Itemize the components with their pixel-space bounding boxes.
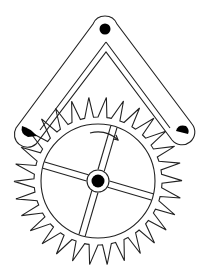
anchor-inner-edge: [40, 42, 170, 130]
pivot-icon: [100, 24, 111, 35]
wheel-spoke: [110, 181, 154, 194]
wheel-spoke: [43, 168, 87, 181]
wheel-spoke: [79, 191, 92, 235]
wheel-spoke: [108, 187, 152, 200]
diagram-canvas: [0, 0, 204, 278]
escapement-diagram: Anchor escapement mechanism: [0, 0, 204, 278]
anchor: [14, 16, 194, 147]
wheel-spoke: [85, 193, 98, 237]
hub-icon: [92, 175, 105, 188]
exit-pallet: [176, 126, 189, 134]
wheel-spoke: [45, 162, 89, 175]
entry-pallet: [22, 126, 37, 137]
